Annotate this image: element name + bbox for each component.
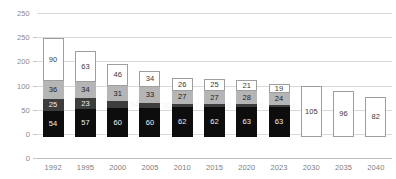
bar-segment: 14: [107, 101, 128, 108]
y-axis-label: 50: [0, 105, 30, 114]
bar-segment: 23: [75, 98, 96, 109]
bar-segment: 46: [107, 64, 128, 86]
bar-value-label: 105: [305, 108, 318, 116]
axis-baseline: [37, 158, 392, 159]
bar-segment: 33: [139, 87, 160, 103]
bar-value-label: 27: [210, 94, 219, 102]
y-axis-label: 250: [0, 33, 30, 42]
bar-segment: 62: [172, 107, 193, 137]
bar-value-label: 36: [49, 86, 58, 94]
x-axis-label-1992: 1992: [45, 163, 62, 172]
bar-segment: 62: [204, 107, 225, 137]
y-axis-label: 250: [0, 9, 30, 18]
bar-segment: 27: [172, 91, 193, 104]
bar-2015: 6262725: [204, 79, 225, 137]
x-axis-label-2020: 2020: [238, 163, 255, 172]
bar-value-label: 26: [178, 81, 187, 89]
bar-value-label: 60: [146, 119, 155, 127]
bar-value-label: 25: [49, 101, 58, 109]
bar-value-label: 90: [49, 56, 58, 64]
y-axis-label: 0: [0, 129, 30, 138]
bar-value-label: 6: [227, 102, 231, 110]
x-axis-label-2005: 2005: [141, 163, 158, 172]
bar-value-label: 33: [146, 91, 155, 99]
bar-value-label: 19: [275, 85, 284, 93]
bar-1992: 54253690: [43, 38, 64, 137]
y-axis-tick: [33, 158, 37, 159]
bar-segment: 60: [139, 108, 160, 137]
bar-2020: 6352821: [236, 80, 257, 137]
bar-segment: 19: [269, 84, 290, 93]
bar-value-label: 27: [178, 93, 187, 101]
x-axis-label-2035: 2035: [335, 163, 352, 172]
bar-chart: 2502502001005000 54253690572334636014314…: [0, 0, 396, 179]
bar-segment: 36: [43, 81, 64, 98]
bar-segment: 26: [172, 78, 193, 91]
x-axis-label-2000: 2000: [109, 163, 126, 172]
y-axis-label: 0: [0, 154, 30, 163]
x-axis-label-2015: 2015: [206, 163, 223, 172]
bar-segment: 82: [365, 97, 386, 137]
bar-value-label: 57: [81, 119, 90, 127]
bar-value-label: 23: [81, 100, 90, 108]
bar-2023: 6342419: [269, 84, 290, 137]
x-axis-label-2040: 2040: [367, 163, 384, 172]
x-axis-label-2023: 2023: [270, 163, 287, 172]
bar-value-label: 82: [372, 113, 381, 121]
bar-segment: 96: [333, 91, 354, 137]
bar-value-label: 10: [162, 102, 171, 110]
bar-value-label: 31: [113, 90, 122, 98]
bar-segment: 7: [172, 104, 193, 107]
bar-value-label: 63: [275, 118, 284, 126]
bar-value-label: 63: [242, 118, 251, 126]
bar-value-label: 5: [259, 102, 263, 110]
y-axis-label: 200: [0, 57, 30, 66]
bar-segment: 90: [43, 38, 64, 82]
bar-value-label: 62: [178, 118, 187, 126]
bar-segment: 34: [139, 71, 160, 87]
bar-segment: 24: [269, 93, 290, 105]
x-axis-label-2010: 2010: [174, 163, 191, 172]
bar-1995: 57233463: [75, 51, 96, 137]
bar-segment: 63: [75, 51, 96, 81]
bar-segment: 6: [204, 104, 225, 107]
bar-value-label: 4: [292, 102, 296, 110]
plot-area: 5425369057233463601431466010333462727266…: [37, 0, 392, 158]
bar-value-label: 7: [195, 102, 199, 110]
bar-value-label: 14: [130, 101, 139, 109]
bar-segment: 31: [107, 86, 128, 101]
bar-value-label: 25: [210, 81, 219, 89]
bar-value-label: 60: [113, 119, 122, 127]
bar-value-label: 34: [146, 75, 155, 83]
bar-2000: 60143146: [107, 64, 128, 137]
bar-segment: 4: [269, 105, 290, 107]
bar-segment: 34: [75, 82, 96, 98]
bar-2040: 82: [365, 97, 386, 137]
bar-segment: 10: [139, 103, 160, 108]
bar-segment: 63: [236, 107, 257, 137]
y-axis-label: 100: [0, 81, 30, 90]
bar-value-label: 46: [113, 71, 122, 79]
bar-segment: 5: [236, 104, 257, 106]
bar-value-label: 34: [81, 86, 90, 94]
bar-segment: 105: [301, 86, 322, 137]
bar-2030: 105: [301, 86, 322, 137]
bar-value-label: 21: [242, 82, 251, 90]
bar-value-label: 63: [81, 63, 90, 71]
bar-segment: 21: [236, 80, 257, 90]
bar-segment: 54: [43, 111, 64, 137]
bar-value-label: 28: [242, 94, 251, 102]
bar-segment: 63: [269, 107, 290, 137]
x-axis-label-2030: 2030: [303, 163, 320, 172]
bar-value-label: 24: [275, 95, 284, 103]
bar-segment: 60: [107, 108, 128, 137]
bar-2035: 96: [333, 91, 354, 137]
x-axis-label-1995: 1995: [77, 163, 94, 172]
bar-segment: 57: [75, 109, 96, 137]
bar-value-label: 54: [49, 120, 58, 128]
bar-value-label: 62: [210, 118, 219, 126]
bar-segment: 25: [43, 99, 64, 111]
bar-segment: 27: [204, 91, 225, 104]
bar-2010: 6272726: [172, 78, 193, 137]
bar-segment: 28: [236, 91, 257, 105]
